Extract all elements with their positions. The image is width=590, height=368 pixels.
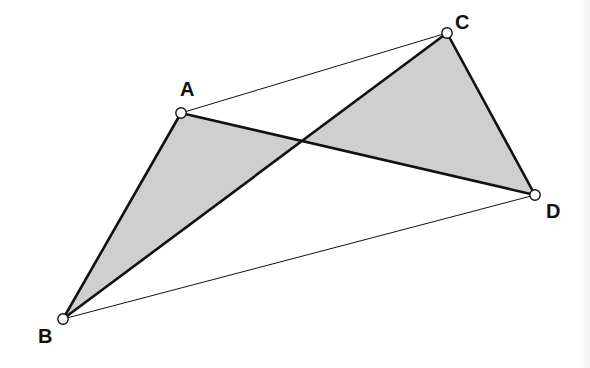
segment-bc (63, 33, 447, 319)
vertex-d (530, 190, 540, 200)
vertex-label-c: C (455, 11, 469, 33)
vertex-label-b: B (38, 325, 52, 347)
geometry-diagram: ABCD (0, 0, 590, 368)
vertex-label-a: A (180, 78, 194, 100)
vertex-a (176, 108, 186, 118)
triangle-ABX (63, 113, 303, 319)
vertex-c (442, 28, 452, 38)
shaded-regions (63, 33, 535, 319)
vertex-b (58, 314, 68, 324)
vertex-label-d: D (546, 200, 560, 222)
